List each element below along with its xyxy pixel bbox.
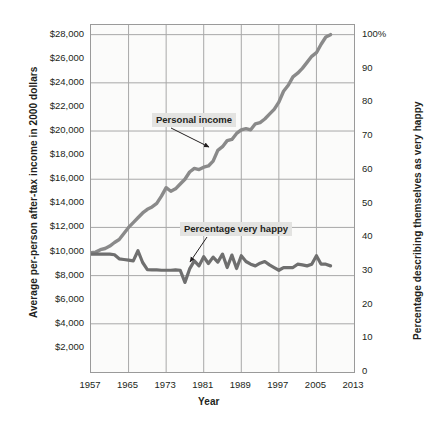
x-axis-tick-label: 1957: [70, 379, 110, 390]
x-axis-tick-label: 1989: [220, 379, 260, 390]
series-line-1: [91, 35, 331, 253]
y-axis-left-tick-label: $24,000: [0, 76, 84, 87]
y-axis-left-tick-label: $2,000: [0, 341, 84, 352]
y-axis-right-tick-label: 20: [362, 298, 373, 309]
y-axis-left-tick-label: $4,000: [0, 317, 84, 328]
y-axis-left-tick-label: $6,000: [0, 293, 84, 304]
annotation-personal-income: Personal income: [152, 113, 236, 127]
x-axis-tick-label: 1973: [145, 379, 185, 390]
y-axis-right-tick-label: 80: [362, 95, 373, 106]
y-axis-left-tick-label: $10,000: [0, 245, 84, 256]
gridlines: [91, 25, 354, 372]
series-layer: [91, 35, 331, 283]
y-axis-left-tick-label: $20,000: [0, 124, 84, 135]
y-axis-left-tick-label: $28,000: [0, 28, 84, 39]
y-axis-right-tick-label: 70: [362, 129, 373, 140]
x-axis-tick-label: 1997: [258, 379, 298, 390]
series-line-2: [91, 251, 331, 283]
plot-svg: [91, 25, 354, 372]
x-axis-tick-label: 1965: [108, 379, 148, 390]
y-axis-right-tick-label: 60: [362, 163, 373, 174]
x-axis-tick-label: 2013: [333, 379, 373, 390]
y-axis-left-tick-label: $8,000: [0, 269, 84, 280]
y-axis-right-tick-label: 40: [362, 230, 373, 241]
x-axis-tick-label: 1981: [183, 379, 223, 390]
y-axis-left-tick-label: $12,000: [0, 220, 84, 231]
y-axis-right-tick-label: 10: [362, 331, 373, 342]
y-axis-left-tick-label: $14,000: [0, 196, 84, 207]
x-axis-title: Year: [198, 396, 220, 407]
y-axis-right-tick-label: 90: [362, 62, 373, 73]
y-axis-left-tick-label: $26,000: [0, 52, 84, 63]
y-axis-right-title: Percentage describing themselves as very…: [412, 101, 423, 340]
plot-area: [90, 24, 355, 373]
y-axis-right-tick-label: 50: [362, 197, 373, 208]
y-axis-left-tick-label: $16,000: [0, 172, 84, 183]
y-axis-right-tick-label: 100%: [362, 28, 386, 39]
y-axis-right-tick-label: 30: [362, 264, 373, 275]
y-axis-left-tick-label: $18,000: [0, 148, 84, 159]
chart-container: Average per-person after-tax income in 2…: [0, 0, 431, 423]
annotation-percentage-very-happy: Percentage very happy: [180, 222, 292, 236]
x-axis-tick-label: 2005: [295, 379, 335, 390]
y-axis-right-tick-label: 0: [362, 365, 367, 376]
y-axis-left-tick-label: $22,000: [0, 100, 84, 111]
